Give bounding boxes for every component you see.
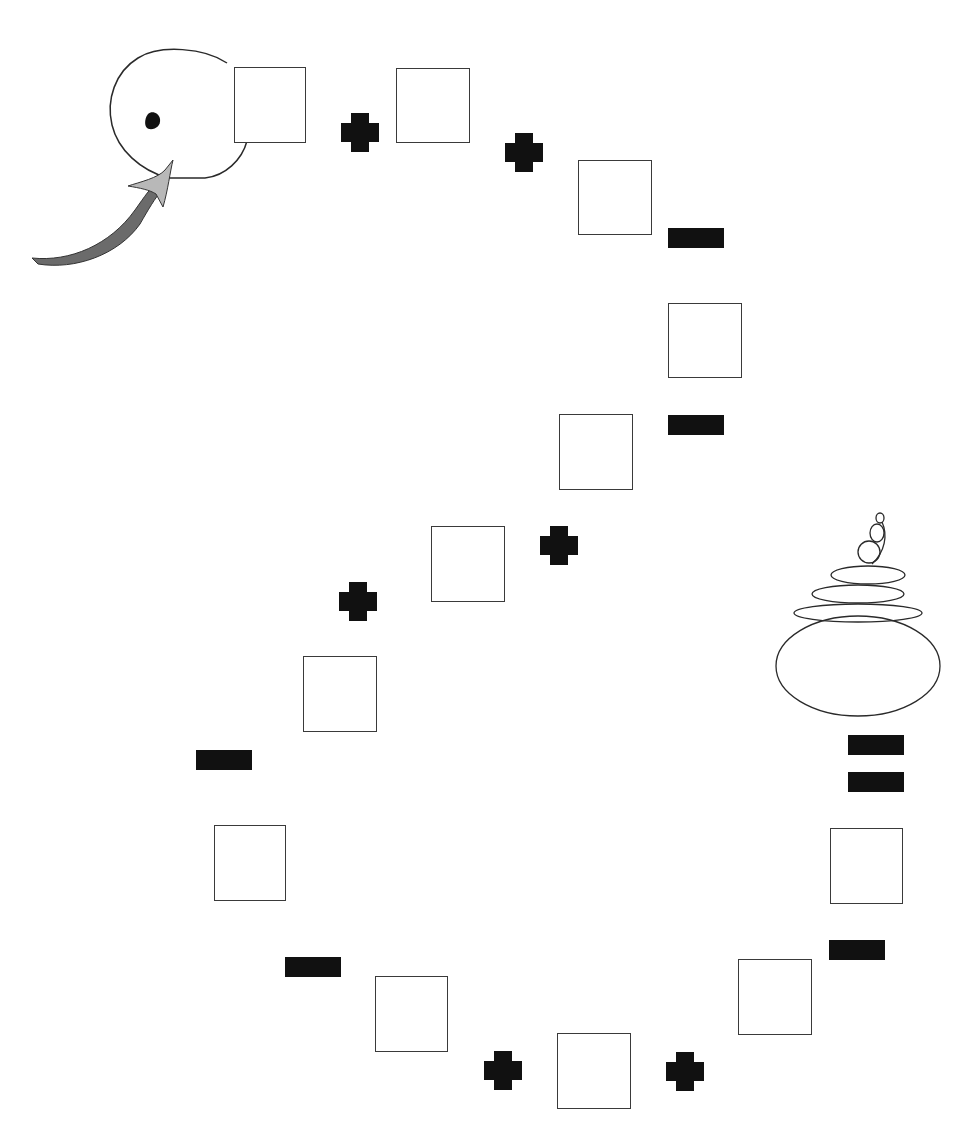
minus-token-icon xyxy=(668,415,724,435)
path-square-10[interactable] xyxy=(557,1033,631,1109)
path-square-6[interactable] xyxy=(431,526,505,602)
head-with-eye-icon xyxy=(110,49,247,178)
eye-icon xyxy=(145,112,160,129)
path-square-9[interactable] xyxy=(375,976,448,1052)
minus-token-icon xyxy=(848,772,904,792)
minus-token-icon xyxy=(668,228,724,248)
path-square-4[interactable] xyxy=(668,303,742,378)
plus-token-icon xyxy=(505,133,543,172)
path-square-12[interactable] xyxy=(830,828,903,904)
path-square-3[interactable] xyxy=(578,160,652,235)
plus-token-icon xyxy=(339,582,377,621)
path-square-1[interactable] xyxy=(234,67,306,143)
path-square-8[interactable] xyxy=(214,825,286,901)
minus-token-icon xyxy=(829,940,885,960)
plus-token-icon xyxy=(540,526,578,565)
path-square-2[interactable] xyxy=(396,68,470,143)
minus-token-icon xyxy=(196,750,252,770)
plus-token-icon xyxy=(666,1052,704,1091)
minus-token-icon xyxy=(848,735,904,755)
minus-token-icon xyxy=(285,957,341,977)
path-square-11[interactable] xyxy=(738,959,812,1035)
plus-token-icon xyxy=(484,1051,522,1090)
plus-token-icon xyxy=(341,113,379,152)
start-arrow-icon xyxy=(32,182,162,265)
game-board xyxy=(0,0,963,1137)
path-square-5[interactable] xyxy=(559,414,633,490)
path-square-7[interactable] xyxy=(303,656,377,732)
stacked-stones-icon xyxy=(776,513,940,716)
